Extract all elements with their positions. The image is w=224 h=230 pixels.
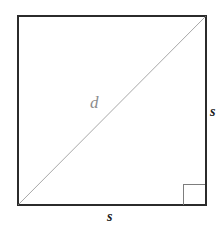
- side-label-bottom: s: [107, 210, 112, 224]
- diagonal-line: [19, 17, 206, 205]
- right-angle-mark: [184, 185, 206, 205]
- geometry-figure: d s s: [0, 0, 224, 230]
- diagonal-label: d: [90, 94, 99, 111]
- side-label-right: s: [210, 105, 215, 119]
- square-diagonal-svg: [0, 0, 224, 230]
